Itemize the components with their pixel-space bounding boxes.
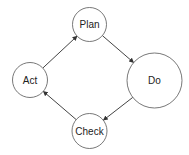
node-label: Check [75,126,104,137]
node-do: Do [127,53,182,108]
pdca-diagram: PlanDoCheckAct [0,0,189,155]
edge-act-to-plan [43,36,77,68]
node-label: Plan [79,19,99,30]
node-label: Do [148,75,161,86]
edges [43,36,134,121]
node-plan: Plan [73,8,107,42]
node-check: Check [72,114,107,149]
edge-plan-to-do [102,36,133,63]
edge-do-to-check [103,97,132,120]
edge-check-to-act [43,91,76,119]
node-label: Act [23,75,38,86]
nodes: PlanDoCheckAct [13,8,183,149]
node-act: Act [13,63,48,98]
